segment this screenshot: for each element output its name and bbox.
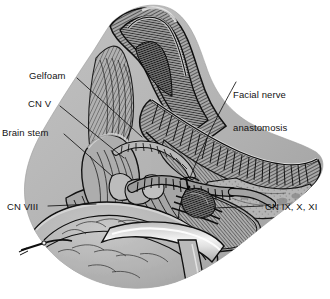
label-facial-nerve-line1: Facial nerve [233,89,287,100]
label-cn-viii: CN VIII [7,201,38,212]
label-facial-nerve-anastomosis: Facial nerve anastomosis [233,67,287,155]
label-gelfoam: Gelfoam [29,70,66,81]
label-cn-ix-x-xi: CN IX, X, XI [265,201,317,212]
label-cn-v: CN V [28,98,51,109]
label-brain-stem: Brain stem [2,127,48,138]
figure-container: Gelfoam CN V Brain stem CN VIII CN IX, X… [0,0,330,299]
label-facial-nerve-line2: anastomosis [233,122,287,133]
